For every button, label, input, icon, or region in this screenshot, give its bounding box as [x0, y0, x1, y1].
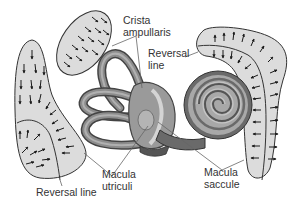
crista-ampullaris-map [45, 1, 122, 85]
label-macula-saccule: Macula saccule [204, 166, 240, 190]
label-macula-utriculi: Macula utriculi [102, 168, 136, 192]
label-reversal-line-right: Reversal line [148, 47, 189, 71]
label-reversal-line-left: Reversal line [36, 186, 97, 198]
label-crista-ampullaris: Crista ampullaris [123, 14, 171, 38]
